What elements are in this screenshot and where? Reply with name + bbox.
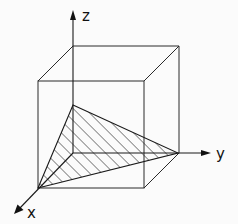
- y-axis-arrow-icon: [201, 150, 211, 156]
- x-axis-label: x: [27, 204, 36, 222]
- z-axis-label: z: [82, 7, 90, 25]
- cube-top-left-depth-edge: [38, 46, 73, 81]
- axes: [14, 10, 211, 214]
- z-axis-arrow-icon: [70, 10, 76, 20]
- cube-top-right-depth-edge: [144, 46, 179, 81]
- y-axis-label: y: [216, 145, 225, 163]
- cube-plane-diagram: z y x: [0, 0, 238, 224]
- hatched-plane: [30, 100, 185, 195]
- diagram-canvas: z y x: [0, 0, 238, 224]
